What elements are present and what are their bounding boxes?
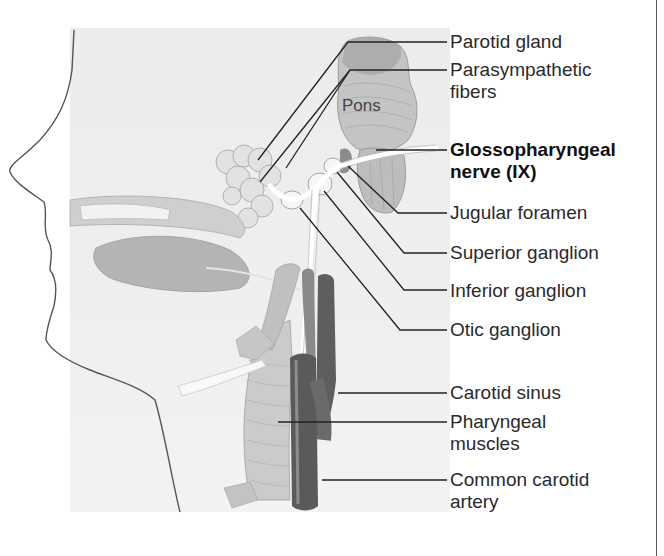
label-jugular-foramen: Jugular foramen [450,202,587,224]
label-inferior-ganglion: Inferior ganglion [450,280,586,302]
label-parotid-gland: Parotid gland [450,31,562,53]
label-parasympathetic-fibers: Parasympathetic fibers [450,59,592,103]
label-pharyngeal-muscles: Pharyngeal muscles [450,411,546,455]
label-carotid-sinus: Carotid sinus [450,382,561,404]
glossopharyngeal-nerve-diagram: Pons Parotid gland Parasympathetic fiber… [0,0,664,556]
label-common-carotid-artery: Common carotid artery [450,469,589,513]
carotid-arteries [290,268,336,510]
label-glossopharyngeal-nerve: Glossopharyngeal nerve (IX) [450,139,616,183]
pons-label: Pons [342,96,381,116]
label-otic-ganglion: Otic ganglion [450,319,561,341]
pharyngeal-muscles-illustration [178,264,300,508]
label-superior-ganglion: Superior ganglion [450,242,599,264]
figure-border-right [656,0,657,556]
